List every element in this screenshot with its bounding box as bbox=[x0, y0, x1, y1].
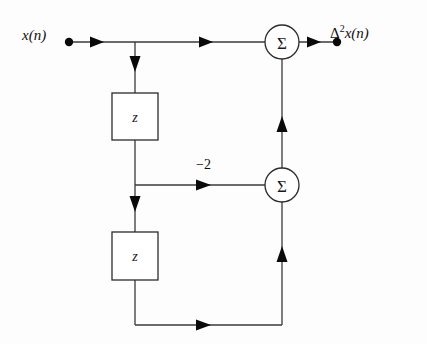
delay-block-2-label: z bbox=[131, 249, 138, 264]
arrowhead-into-adder-bottom bbox=[277, 246, 288, 262]
adder-top-sigma-label: Σ bbox=[277, 34, 287, 53]
output-signal-expression: x(n) bbox=[345, 25, 369, 41]
arrowhead-into-adder-top bbox=[277, 116, 288, 132]
output-signal-label: Δ2x(n) bbox=[330, 25, 369, 42]
arrowhead-into-delay2 bbox=[130, 196, 141, 212]
arrowhead-to-adder-top bbox=[199, 37, 213, 48]
arrowhead-feedback-bottom bbox=[196, 320, 211, 331]
arrowhead-into-delay1 bbox=[130, 56, 141, 72]
arrowhead-input bbox=[90, 37, 104, 48]
delta-symbol: Δ bbox=[330, 25, 340, 41]
arrowhead-to-output bbox=[307, 37, 321, 48]
adder-bottom-sigma-label: Σ bbox=[277, 177, 287, 196]
input-terminal-dot bbox=[65, 38, 73, 46]
input-signal-label: x(n) bbox=[22, 27, 46, 44]
delay-block-1-label: z bbox=[131, 110, 138, 125]
gain-label: −2 bbox=[196, 157, 211, 173]
signal-flow-diagram: z z Σ Σ x(n) Δ2x(n) −2 bbox=[0, 0, 427, 344]
diagram-canvas: z z Σ Σ bbox=[0, 0, 427, 344]
arrowhead-gain-line bbox=[196, 180, 211, 191]
